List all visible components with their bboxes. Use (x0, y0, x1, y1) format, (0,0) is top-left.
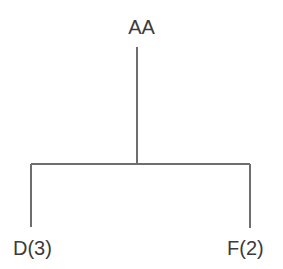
tree-edges-svg (0, 0, 283, 269)
leaf-node-label-right: F(2) (227, 238, 264, 258)
tree-diagram: AA D(3) F(2) (0, 0, 283, 269)
leaf-node-label-left: D(3) (13, 238, 52, 258)
root-node-label: AA (0, 17, 283, 37)
